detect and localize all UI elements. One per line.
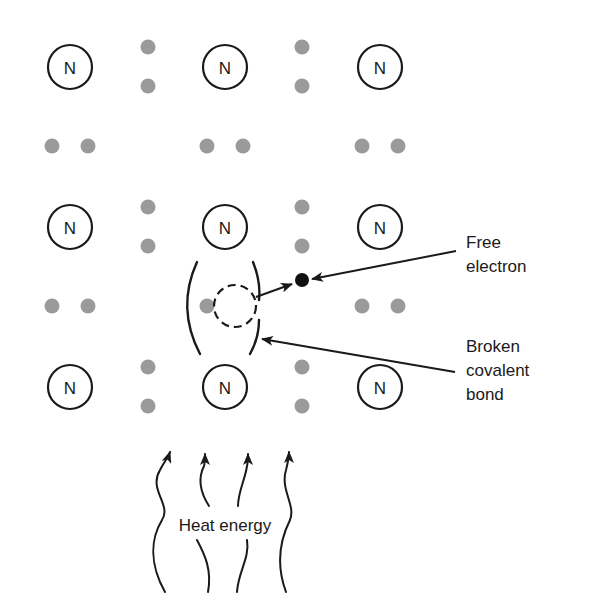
atom-1-3: N [358,45,402,89]
atom-2-2: N [203,205,247,249]
broken-bond-label: Broken covalent bond [466,337,534,404]
valence-electron-dot [295,239,310,254]
valence-electron-dot [295,399,310,414]
atom-symbol: N [374,59,386,78]
valence-electron-dot [141,40,156,55]
atom-1-1: N [48,45,92,89]
valence-electron-dot [295,360,310,375]
broken-bond-label-line2: covalent [466,361,530,380]
atom-3-3: N [358,365,402,409]
atom-3-1: N [48,365,92,409]
valence-electron-dot [45,139,60,154]
valence-electron-dot [141,399,156,414]
broken-bond-right-bracket-lower [250,320,259,354]
hole-dashed-circle [214,285,256,327]
heat-arrow-4 [280,452,291,592]
valence-electron-dot [81,299,96,314]
valence-electron-dot [200,299,215,314]
atom-2-1: N [48,205,92,249]
atom-2-3: N [358,205,402,249]
heat-arrow-3 [238,454,248,506]
valence-electron-dot [391,139,406,154]
valence-electron-dot [295,40,310,55]
atom-symbol: N [64,379,76,398]
atom-symbol: N [374,379,386,398]
heat-arrow-3-tail [237,540,247,592]
valence-electron-dot [45,299,60,314]
semiconductor-lattice-diagram: NNNNNNNNN Free electron Broken covalent … [0,0,589,614]
valence-electron-dot [355,139,370,154]
heat-arrow-2 [201,454,209,506]
broken-bond-label-line1: Broken [466,337,520,356]
valence-electron-dot [236,139,251,154]
valence-electron-dot [141,79,156,94]
valence-electron-dot [81,139,96,154]
broken-bond-left-bracket [187,262,200,354]
free-electron-label-line1: Free [466,233,501,252]
free-electron-label: Free electron [466,233,526,276]
valence-electron-dot [200,139,215,154]
valence-electron-dot [141,200,156,215]
broken-bond-label-line3: bond [466,385,504,404]
broken-bond-pointer [262,339,455,372]
free-electron-dot [295,273,309,287]
atom-symbol: N [64,219,76,238]
atom-symbol: N [374,219,386,238]
broken-bond-region [187,262,259,354]
electron-escape-arrow [256,284,292,297]
heat-arrow-2-tail [197,540,209,592]
valence-electron-dot [391,299,406,314]
valence-electron-dot [141,239,156,254]
atom-1-2: N [203,45,247,89]
atom-symbol: N [219,379,231,398]
free-electron-label-line2: electron [466,257,526,276]
broken-bond-right-bracket-upper [253,262,259,300]
valence-electron-dot [355,299,370,314]
valence-electron-dot [295,200,310,215]
atom-symbol: N [219,59,231,78]
atom-symbol: N [219,219,231,238]
valence-electron-dot [141,360,156,375]
valence-electron-dot [295,79,310,94]
atom-3-2: N [203,365,247,409]
free-electron-pointer [312,251,456,279]
atom-symbol: N [64,59,76,78]
heat-arrow-1 [153,452,170,592]
heat-energy-label: Heat energy [179,516,272,535]
